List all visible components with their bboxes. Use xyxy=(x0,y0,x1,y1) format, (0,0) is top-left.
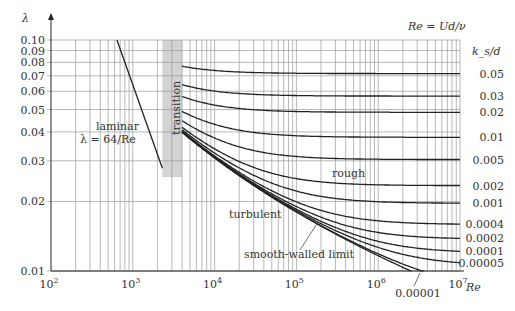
re-definition: Re = Ud/ν xyxy=(407,20,466,33)
roughness-label-0.0004: 0.0004 xyxy=(466,218,505,231)
roughness-label-0.0002: 0.0002 xyxy=(466,232,505,245)
roughness-label-0.01: 0.01 xyxy=(480,131,505,144)
y-tick-label: 0.07 xyxy=(21,70,46,83)
smooth-walled-limit-label: smooth-walled limit xyxy=(244,248,355,261)
laminar-formula: λ = 64/Re xyxy=(80,133,136,146)
roughness-header: k_s/d xyxy=(472,45,501,58)
y-axis-label: λ xyxy=(21,12,29,25)
roughness-label-0.02: 0.02 xyxy=(480,106,505,119)
y-tick-label: 0.06 xyxy=(21,85,46,98)
y-tick-label: 0.01 xyxy=(21,265,46,278)
roughness-label-0.005: 0.005 xyxy=(473,154,505,167)
laminar-label: laminar xyxy=(96,120,140,133)
roughness-label-0.00001: 0.00001 xyxy=(395,287,441,300)
rough-label: rough xyxy=(332,167,365,180)
y-tick-label: 0.05 xyxy=(21,104,46,117)
background xyxy=(0,0,515,311)
roughness-label-0.001: 0.001 xyxy=(473,197,505,210)
y-tick-label: 0.08 xyxy=(21,56,46,69)
roughness-label-0.05: 0.05 xyxy=(480,68,505,81)
y-tick-label: 0.02 xyxy=(21,195,46,208)
transition-label: transition xyxy=(170,81,183,135)
moody-diagram: 0.100.090.080.070.060.050.040.030.020.01… xyxy=(0,0,515,311)
y-tick-label: 0.04 xyxy=(21,126,46,139)
roughness-label-0.002: 0.002 xyxy=(473,180,505,193)
x-axis-label: Re xyxy=(465,281,481,294)
roughness-label-0.03: 0.03 xyxy=(480,90,505,103)
turbulent-label: turbulent xyxy=(229,208,282,221)
roughness-label-0.00005: 0.00005 xyxy=(459,257,505,270)
y-tick-label: 0.03 xyxy=(21,155,46,168)
